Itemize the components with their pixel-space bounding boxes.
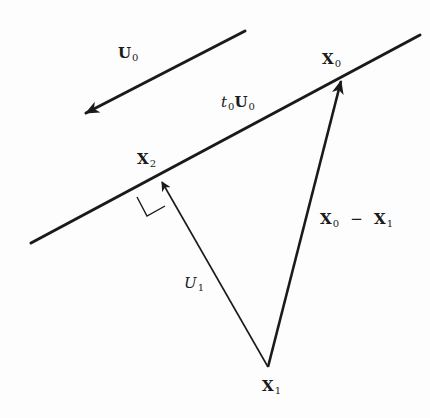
label-t0u0-main: U: [234, 93, 247, 111]
label-t0u0-sub: 0: [249, 101, 255, 112]
label-t0u0: t0U0: [221, 95, 255, 112]
label-u0: U0: [118, 46, 138, 63]
label-x0-sub: 0: [335, 58, 341, 69]
label-u1: U1: [184, 276, 204, 293]
label-u1-main: U: [184, 274, 197, 292]
label-x0: X0: [322, 52, 341, 69]
right-angle-marker: [137, 197, 165, 216]
label-x0-minus-x1: X0 − X1: [320, 212, 393, 229]
diagram-canvas: U0 t0U0 X0 X2 X0 − X1 U1 X1: [0, 0, 430, 418]
label-x2-main: X: [137, 150, 149, 168]
label-u0-sub: 0: [132, 52, 138, 63]
label-u1-sub: 1: [198, 282, 204, 293]
label-b-sub: 1: [387, 218, 393, 229]
label-a: X: [320, 210, 332, 228]
label-x1: X1: [262, 379, 281, 396]
label-t0u0-prefix: t: [221, 93, 227, 111]
label-b: X: [374, 210, 386, 228]
label-x2-sub: 2: [150, 158, 156, 169]
label-a-sub: 0: [333, 218, 339, 229]
label-x1-main: X: [262, 377, 274, 395]
label-minus-op: −: [350, 210, 363, 228]
label-x1-sub: 1: [275, 385, 281, 396]
label-x2: X2: [137, 152, 156, 169]
label-u0-main: U: [118, 44, 131, 62]
u1-vector: [162, 182, 268, 367]
diagram-svg: [0, 0, 430, 418]
label-x0-main: X: [322, 50, 334, 68]
